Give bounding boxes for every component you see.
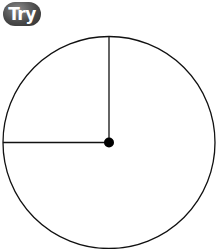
- circle-diagram: [0, 0, 224, 249]
- center-dot: [104, 138, 114, 148]
